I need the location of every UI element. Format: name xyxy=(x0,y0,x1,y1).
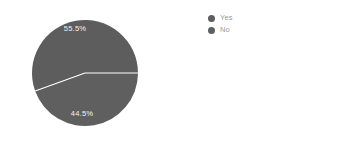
legend-swatch-yes-icon xyxy=(208,15,215,22)
legend-swatch-no-icon xyxy=(208,27,215,34)
pie-chart-figure: 55.5% 44.5% Yes No xyxy=(0,0,351,144)
pie-svg xyxy=(0,0,200,144)
slice-label-no: 44.5% xyxy=(71,109,93,118)
legend-label-yes: Yes xyxy=(220,12,233,24)
legend-item-yes[interactable]: Yes xyxy=(208,12,328,24)
legend-label-no: No xyxy=(220,24,230,36)
pie-plot-area: 55.5% 44.5% xyxy=(0,0,200,144)
chart-legend: Yes No xyxy=(208,12,328,36)
slice-label-yes: 55.5% xyxy=(64,24,86,33)
legend-item-no[interactable]: No xyxy=(208,24,328,36)
